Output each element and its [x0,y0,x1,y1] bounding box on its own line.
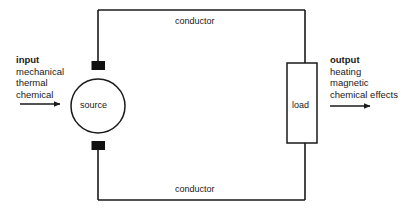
load-label: load [292,100,309,112]
source-bottom-terminal [92,141,106,150]
output-line-chemical-effects: chemical effects [330,89,398,101]
input-heading: input [16,54,64,66]
top-conductor-label: conductor [175,16,215,28]
input-line-thermal: thermal [16,77,64,89]
output-line-heating: heating [330,66,398,78]
source-top-terminal [92,61,106,70]
circuit-schematic-svg [0,0,417,215]
source-label: source [80,100,107,112]
input-line-mechanical: mechanical [16,66,64,78]
bottom-conductor-label: conductor [175,184,215,196]
input-text-block: input mechanical thermal chemical [16,54,64,100]
circuit-diagram: input mechanical thermal chemical output… [0,0,417,215]
input-line-chemical: chemical [16,89,64,101]
output-line-magnetic: magnetic [330,77,398,89]
output-heading: output [330,54,398,66]
output-text-block: output heating magnetic chemical effects [330,54,398,100]
